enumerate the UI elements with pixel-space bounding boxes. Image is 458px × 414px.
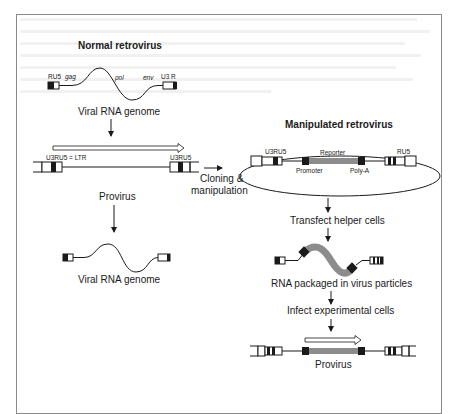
packaged-rna: [275, 246, 383, 273]
plasmid-ltr-left-label: U3RU5: [265, 148, 287, 155]
promoter-label: Promoter: [296, 167, 324, 174]
transfect-step-label: Transfect helper cells: [290, 215, 385, 226]
reporter-label: Reporter: [320, 149, 346, 157]
cloning-label-line2: manipulation: [191, 185, 248, 196]
cloning-label-line1: Cloning &: [200, 173, 244, 184]
ltr-label-right: U3RU5: [170, 154, 192, 161]
label-ru5: RU5: [48, 73, 61, 80]
normal-retrovirus-title: Normal retrovirus: [78, 40, 162, 51]
expression-hollow-arrow: [305, 336, 361, 345]
manipulated-retrovirus-title: Manipulated retrovirus: [285, 119, 393, 130]
polya-label: Poly-A: [350, 167, 370, 175]
provirus-label: Provirus: [99, 191, 136, 202]
manipulated-provirus-label: Provirus: [315, 359, 352, 370]
label-u3r: U3 R: [161, 73, 176, 80]
viral-rna-genome-label-top: Viral RNA genome: [78, 106, 161, 117]
normal-rna-genome: RU5 gag pol env U3 R: [48, 68, 177, 100]
plasmid-ltr-right-label: RU5: [397, 148, 410, 155]
transcription-hollow-arrow: [53, 144, 184, 153]
ltr-label-left: U3RU5 = LTR: [46, 154, 87, 161]
infect-step-label: Infect experimental cells: [287, 305, 394, 316]
rna-packaged-label: RNA packaged in virus particles: [271, 278, 412, 289]
label-env: env: [143, 74, 154, 81]
provirus-dna: U3RU5 = LTR U3RU5: [33, 154, 199, 172]
label-pol: pol: [114, 74, 124, 82]
manipulated-provirus: [250, 346, 416, 356]
label-gag: gag: [65, 73, 76, 81]
viral-rna-genome-bottom: [63, 244, 170, 272]
plasmid-construct: U3RU5 RU5 Reporter Promoter Poly-A: [240, 148, 440, 196]
viral-rna-genome-label-bottom: Viral RNA genome: [78, 274, 161, 285]
